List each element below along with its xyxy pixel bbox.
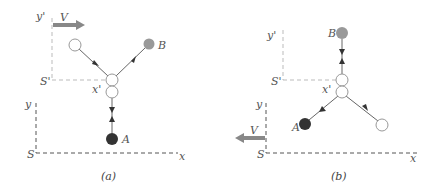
x-label: x — [179, 150, 186, 163]
y-label: y — [24, 98, 32, 111]
v-label: V — [250, 124, 259, 137]
s-prime-label: S' — [271, 75, 282, 88]
panel-b: y' B S' x' y V A S x (b) — [235, 27, 418, 183]
a-label: A — [121, 133, 130, 146]
ball-b — [336, 27, 348, 39]
s-prime-label: S' — [40, 75, 51, 88]
y-prime-label: y' — [35, 10, 45, 23]
x-label: x — [410, 152, 417, 165]
b-label: B — [157, 39, 166, 52]
s-label: S — [257, 148, 265, 161]
x-prime-label: x' — [322, 83, 331, 96]
b-label: B — [327, 27, 336, 40]
caption-a: (a) — [101, 170, 116, 183]
panel-a: y' V B S' x' y A S x (a) — [24, 10, 186, 183]
ball-collision-upper — [336, 74, 348, 86]
ball-b — [144, 39, 155, 50]
ball-collision-lower — [336, 86, 348, 98]
ball-collision-upper — [106, 74, 118, 86]
ball-collision-lower — [106, 86, 118, 98]
y-prime-label: y' — [266, 29, 276, 42]
v-label: V — [60, 11, 69, 24]
y-label: y — [255, 98, 263, 111]
lab-frame-axes — [36, 103, 178, 153]
velocity-arrow — [53, 20, 85, 30]
caption-b: (b) — [331, 170, 347, 183]
collision-diagram: y' V B S' x' y A S x (a) — [0, 0, 439, 194]
ball-a — [106, 133, 118, 145]
a-label: A — [291, 121, 300, 134]
ball-a — [299, 118, 311, 130]
x-prime-label: x' — [92, 83, 101, 96]
lab-frame-axes — [266, 103, 418, 153]
ball-white-initial — [376, 119, 388, 131]
ball-white-initial — [69, 39, 81, 51]
s-label: S — [27, 148, 35, 161]
